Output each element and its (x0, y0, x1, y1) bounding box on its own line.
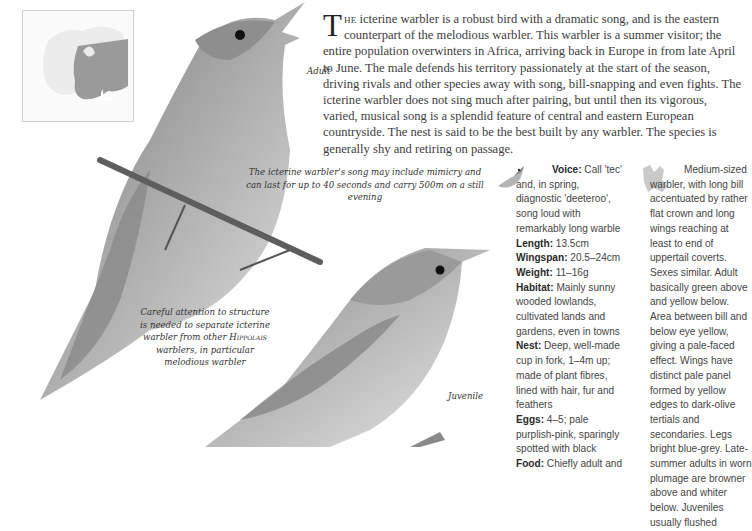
fact-food: Food: Chiefly adult and (516, 457, 626, 472)
genus-name: Hippolais (229, 332, 267, 342)
fact-eggs: Eggs: 4–5; pale purplish-pink, sparingly… (516, 413, 626, 457)
caption-text: warblers, in particular melodious warble… (156, 345, 254, 368)
europe-range-map-icon (23, 11, 133, 121)
fact-weight: Weight: 11–16g (516, 266, 626, 281)
description-text: Medium-sized warbler, with long bill acc… (650, 163, 752, 531)
intro-lead: he (344, 12, 356, 26)
drop-cap: T (323, 13, 342, 39)
fact-nest: Nest: Deep, well-made cup in fork, 1–4m … (516, 339, 626, 413)
identification-caption: Careful attention to structure is needed… (140, 306, 270, 369)
facts-column: Voice: Call 'tec' and, in spring, diagno… (516, 163, 626, 472)
song-caption: The icterine warbler's song may include … (245, 166, 485, 204)
fact-habitat: Habitat: Mainly sunny wooded lowlands, c… (516, 281, 626, 340)
description-column: Medium-sized warbler, with long bill acc… (650, 163, 752, 531)
juvenile-label: Juvenile (448, 391, 483, 401)
fact-wingspan: Wingspan: 20.5–24cm (516, 251, 626, 266)
intro-text: icterine warbler is a robust bird with a… (323, 12, 741, 156)
fact-voice: Voice: Call 'tec' and, in spring, diagno… (516, 163, 626, 237)
intro-paragraph: The icterine warbler is a robust bird wi… (323, 11, 743, 157)
fact-length: Length: 13.5cm (516, 237, 626, 252)
range-map (22, 10, 134, 122)
